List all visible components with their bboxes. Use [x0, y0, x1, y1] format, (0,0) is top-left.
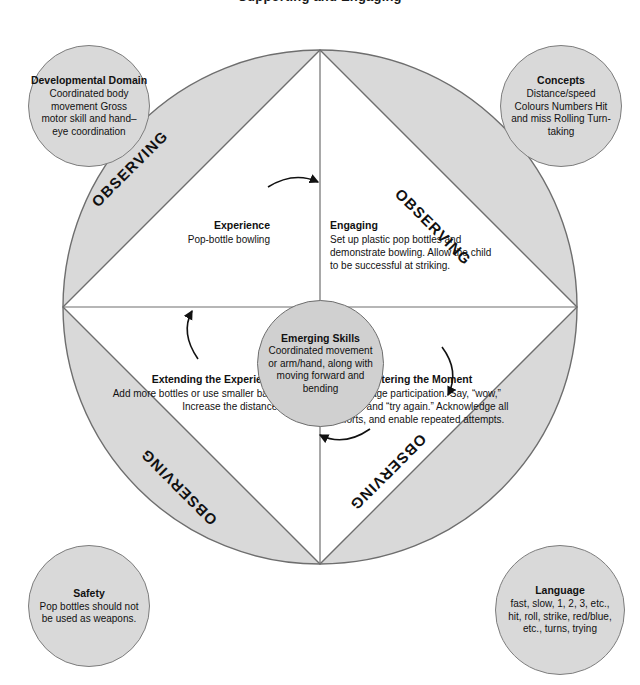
emerging-skills-circle: Emerging Skills Coordinated movement or …	[257, 300, 384, 427]
quadrant-extending-body: Add more bottles or use smaller balls. I…	[110, 387, 280, 413]
satellite-language-title: Language	[535, 584, 585, 596]
satellite-concepts-body: Distance/speed Colours Numbers Hit and m…	[501, 88, 621, 138]
satellite-language: Language fast, slow, 1, 2, 3, etc., hit,…	[495, 545, 625, 675]
quadrant-extending-title: Extending the Experience	[110, 373, 280, 385]
quadrant-engaging-body: Set up plastic pop bottles and demonstra…	[330, 233, 495, 272]
satellite-developmental-domain: Developmental Domain Coordinated body mo…	[28, 45, 150, 167]
page-title: Supporting and Engaging	[120, 0, 520, 5]
quadrant-experience: Experience Pop-bottle bowling	[140, 219, 270, 246]
quadrant-extending-the-experience: Extending the Experience Add more bottle…	[110, 373, 280, 413]
quadrant-experience-body: Pop-bottle bowling	[140, 233, 270, 246]
diagram-canvas: Supporting and Engaging	[0, 0, 640, 685]
quadrant-experience-title: Experience	[140, 219, 270, 231]
satellite-safety: Safety Pop bottles should not be used as…	[28, 545, 150, 667]
quadrant-engaging-title: Engaging	[330, 219, 495, 231]
satellite-developmental-domain-body: Coordinated body movement Gross motor sk…	[29, 88, 149, 138]
satellite-safety-body: Pop bottles should not be used as weapon…	[29, 601, 149, 626]
satellite-safety-title: Safety	[73, 587, 105, 599]
satellite-concepts-title: Concepts	[537, 74, 585, 86]
emerging-skills-body: Coordinated movement or arm/hand, along …	[258, 345, 383, 395]
satellite-concepts: Concepts Distance/speed Colours Numbers …	[500, 45, 622, 167]
quadrant-engaging: Engaging Set up plastic pop bottles and …	[330, 219, 495, 272]
satellite-language-body: fast, slow, 1, 2, 3, etc., hit, roll, st…	[496, 598, 624, 636]
satellite-developmental-domain-title: Developmental Domain	[31, 74, 147, 86]
emerging-skills-title: Emerging Skills	[281, 332, 360, 344]
page-title-text: Supporting and Engaging	[120, 0, 520, 5]
